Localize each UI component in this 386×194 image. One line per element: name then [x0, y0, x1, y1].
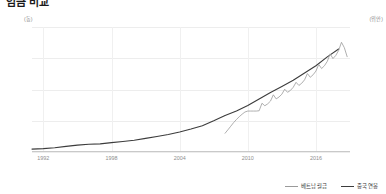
x-axis-tick-label: 1998: [106, 156, 118, 161]
legend-item[interactable]: 중국 연봉: [341, 184, 379, 189]
legend-label: 베트남 월급: [301, 184, 328, 189]
chart-legend: 베트남 월급중국 연봉: [285, 184, 378, 189]
chart-title: 임금 비교: [6, 0, 49, 9]
legend-swatch-icon: [341, 186, 354, 187]
chart-root: 임금 비교 (동) (위안) 80006000400020000 1000008…: [0, 0, 386, 194]
plot-area: 80006000400020000 1000008000060000400002…: [32, 27, 350, 152]
legend-label: 중국 연봉: [357, 184, 379, 189]
gridline: [32, 152, 350, 153]
legend-item[interactable]: 베트남 월급: [285, 184, 328, 189]
series-line: [32, 49, 339, 149]
x-axis-tick-label: 1992: [37, 156, 49, 161]
left-axis-unit-label: (동): [24, 15, 32, 22]
x-axis-tick-label: 2016: [310, 156, 322, 161]
legend-swatch-icon: [285, 186, 298, 187]
right-axis-unit-label: (위안): [370, 15, 383, 22]
series-lines: [32, 27, 350, 152]
x-axis-tick-label: 2004: [174, 156, 186, 161]
x-axis-tick-label: 2010: [242, 156, 254, 161]
